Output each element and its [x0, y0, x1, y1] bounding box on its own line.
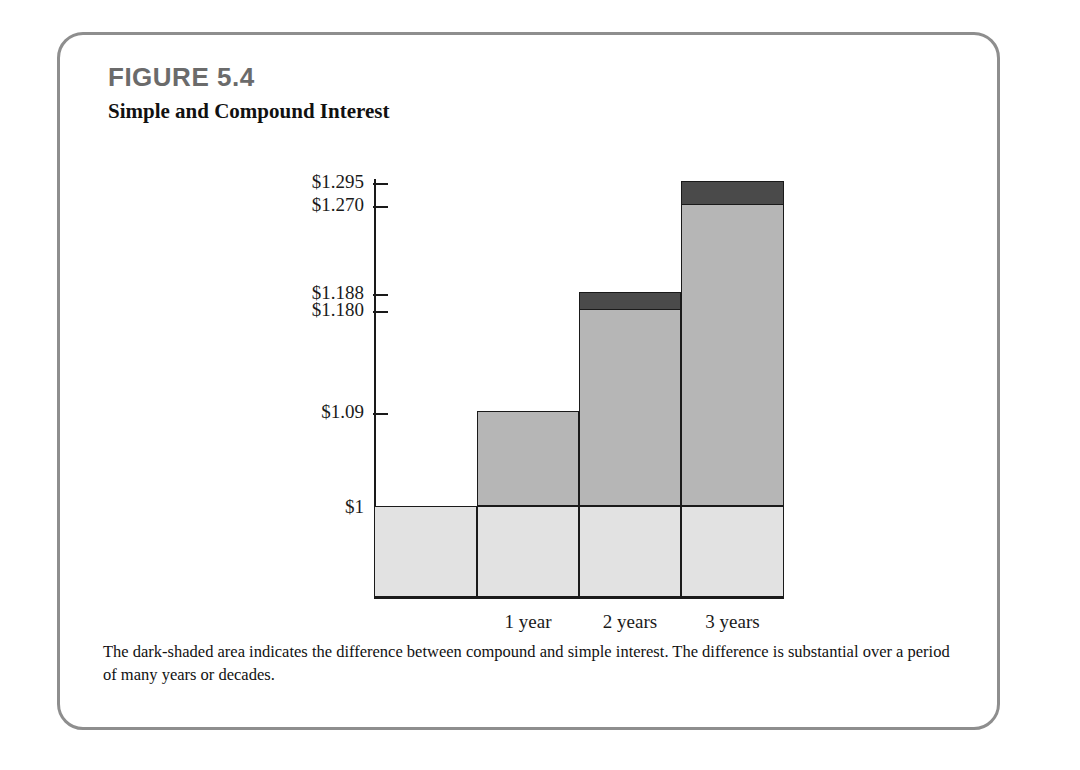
y-label-1295: $1.295 — [312, 171, 364, 193]
bar-column-2-years — [579, 177, 681, 597]
x-label-3-years: 3 years — [681, 611, 784, 633]
bar-column-1-year — [477, 177, 579, 597]
bar-segment-simple-interest — [579, 309, 681, 506]
bar-segment-simple-interest — [681, 204, 784, 506]
x-label-2-years: 2 years — [579, 611, 681, 633]
bar-chart: $1.295 $1.270 $1.188 $1.180 $1.09 $1 — [374, 179, 784, 599]
figure-frame: FIGURE 5.4 Simple and Compound Interest … — [57, 32, 1000, 730]
y-label-1: $1 — [345, 496, 364, 518]
y-axis-labels: $1.295 $1.270 $1.188 $1.180 $1.09 $1 — [268, 179, 364, 599]
bar-segment-compound-difference — [579, 292, 681, 310]
y-label-109: $1.09 — [321, 401, 364, 423]
figure-caption: The dark-shaded area indicates the diffe… — [103, 640, 961, 687]
x-axis-line — [374, 597, 784, 599]
y-label-1270: $1.270 — [312, 194, 364, 216]
figure-title: Simple and Compound Interest — [108, 99, 389, 124]
bar-column-3-years — [681, 177, 784, 597]
bar-segment-principal — [579, 506, 681, 597]
bar-segment-compound-difference — [681, 181, 784, 205]
x-label-1-year: 1 year — [477, 611, 579, 633]
y-label-1180: $1.180 — [312, 299, 364, 321]
bar-segment-principal — [374, 506, 477, 597]
bar-segment-simple-interest — [477, 411, 579, 506]
figure-number: FIGURE 5.4 — [108, 62, 255, 93]
bar-segment-principal — [681, 506, 784, 597]
bar-segment-principal — [477, 506, 579, 597]
bar-column-year0 — [374, 177, 477, 597]
